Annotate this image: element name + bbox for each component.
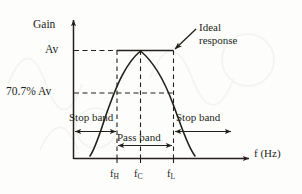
ideal-response-line2: response <box>199 34 238 46</box>
half-power-gain-label: 70.7% Av <box>6 85 51 97</box>
x-axis-label: f (Hz) <box>254 148 281 160</box>
frequency-tick-label-fc: fC <box>134 168 143 181</box>
frequency-tick-label-fh: fH <box>110 168 119 181</box>
ideal-response-pointer-arrow <box>175 29 196 49</box>
stop-band-right-label: Stop band <box>176 112 220 124</box>
peak-gain-label: Av <box>45 43 58 55</box>
frequency-tick-label-fl: fL <box>167 168 175 181</box>
stop-band-left-label: Stop band <box>69 112 113 124</box>
figure-screenshot: Gain Av 70.7% Av Ideal response Stop ban… <box>0 0 302 194</box>
ideal-response-line1: Ideal <box>199 21 221 33</box>
y-axis-label: Gain <box>33 18 55 30</box>
ideal-response-annotation: Ideal response <box>199 21 238 47</box>
pass-band-label: Pass band <box>117 132 161 144</box>
